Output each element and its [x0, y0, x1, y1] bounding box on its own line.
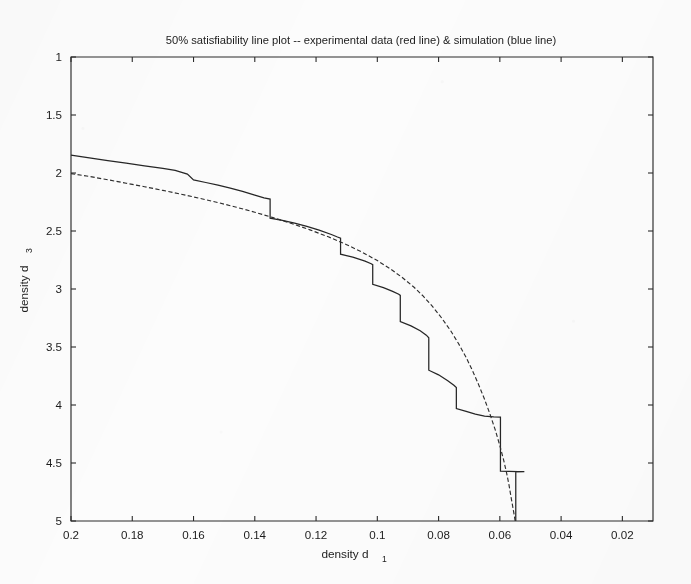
- x-tick-label: 0.06: [489, 528, 512, 541]
- y-tick-label: 5: [56, 514, 62, 527]
- y-tick-label: 2.5: [46, 224, 62, 237]
- y-tick-label: 1: [56, 50, 62, 63]
- x-tick-label: 0.02: [611, 528, 634, 541]
- x-tick-label: 0.1: [369, 528, 385, 541]
- y-axis-ticks: [71, 57, 653, 521]
- x-axis-ticks: [71, 57, 622, 521]
- y-tick-label: 4.5: [46, 456, 62, 469]
- x-tick-label: 0.04: [550, 528, 573, 541]
- x-tick-label: 0.18: [121, 528, 144, 541]
- x-axis-label: density d: [321, 547, 368, 561]
- series-simulation-line: [71, 174, 515, 521]
- series-experimental-data-line: [71, 155, 524, 521]
- x-tick-label: 0.08: [427, 528, 450, 541]
- y-tick-label: 3: [56, 282, 62, 295]
- y-tick-label: 3.5: [46, 340, 62, 353]
- x-tick-label: 0.12: [305, 528, 328, 541]
- x-axis-label-group: density d 1: [321, 547, 387, 564]
- x-tick-label: 0.14: [244, 528, 267, 541]
- plot-axes-box: [71, 57, 653, 521]
- x-axis-tick-labels: 0.20.180.160.140.120.10.080.060.040.02: [63, 528, 634, 541]
- chart-svg: 50% satisfiability line plot -- experime…: [0, 0, 691, 584]
- y-axis-label-group: density d 3: [17, 248, 34, 313]
- y-tick-label: 1.5: [46, 108, 62, 121]
- y-axis-label: density d: [17, 265, 31, 312]
- x-axis-label-subscript: 1: [382, 554, 387, 564]
- figure-canvas: 50% satisfiability line plot -- experime…: [0, 0, 691, 584]
- y-tick-label: 4: [56, 398, 63, 411]
- y-tick-label: 2: [56, 166, 62, 179]
- chart-title: 50% satisfiability line plot -- experime…: [166, 34, 557, 46]
- x-tick-label: 0.2: [63, 528, 79, 541]
- y-axis-tick-labels: 11.522.533.544.55: [46, 50, 63, 527]
- x-tick-label: 0.16: [182, 528, 205, 541]
- y-axis-label-subscript: 3: [24, 248, 34, 253]
